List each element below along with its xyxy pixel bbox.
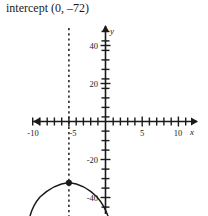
y-tick-label-neg20: -20 bbox=[87, 155, 98, 165]
graph-figure: intercept (0, –72) bbox=[0, 0, 208, 216]
x-tick-label-10: 10 bbox=[174, 128, 183, 138]
x-axis-right-arrowhead bbox=[191, 118, 198, 126]
x-axis-left-arrowhead bbox=[33, 118, 40, 126]
x-tick-label-neg5: -5 bbox=[69, 128, 76, 138]
x-tick-label-5: 5 bbox=[140, 128, 144, 138]
vertex-point-marker bbox=[66, 180, 72, 186]
x-tick-label-neg10: -10 bbox=[27, 128, 38, 138]
y-axis bbox=[102, 25, 109, 214]
y-tick-label-20: 20 bbox=[90, 79, 99, 89]
y-tick-label-neg40: -40 bbox=[87, 193, 98, 203]
x-axis bbox=[33, 118, 198, 126]
y-axis-label: y bbox=[109, 26, 114, 36]
x-axis-label: x bbox=[189, 127, 194, 137]
coordinate-plane: -10 -5 5 10 40 20 -20 -40 y x bbox=[0, 0, 208, 216]
y-tick-label-40: 40 bbox=[90, 41, 99, 51]
